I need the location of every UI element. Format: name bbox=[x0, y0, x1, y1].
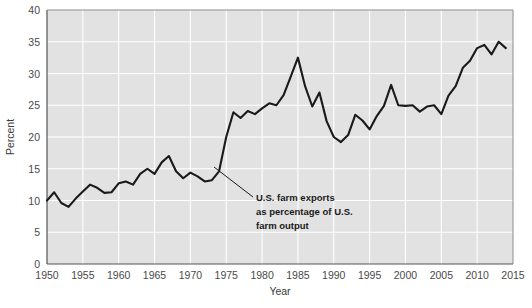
y-tick-label: 5 bbox=[34, 226, 40, 238]
y-tick-label: 10 bbox=[28, 195, 40, 207]
annotation-line-1: U.S. farm exports bbox=[256, 192, 335, 203]
x-tick-label: 1990 bbox=[322, 269, 346, 281]
x-axis-title: Year bbox=[269, 285, 291, 297]
x-tick-label: 1975 bbox=[215, 269, 239, 281]
y-tick-label: 20 bbox=[28, 131, 40, 143]
y-tick-label: 15 bbox=[28, 163, 40, 175]
x-tick-label: 1955 bbox=[71, 269, 95, 281]
x-tick-label: 1985 bbox=[286, 269, 310, 281]
line-chart-svg: 0510152025303540 19501955196019651970197… bbox=[0, 0, 532, 308]
x-tick-label: 2005 bbox=[430, 269, 454, 281]
annotation-line-2: as percentage of U.S. bbox=[256, 206, 353, 217]
y-axis-title: Percent bbox=[4, 119, 16, 155]
chart-figure: 0510152025303540 19501955196019651970197… bbox=[0, 0, 532, 308]
x-tick-label: 1960 bbox=[107, 269, 131, 281]
x-tick-label: 1965 bbox=[143, 269, 167, 281]
x-tick-label: 1950 bbox=[35, 269, 59, 281]
x-tick-label: 1970 bbox=[179, 269, 203, 281]
x-tick-label: 1995 bbox=[358, 269, 382, 281]
x-tick-label: 2010 bbox=[465, 269, 489, 281]
y-tick-label: 30 bbox=[28, 68, 40, 80]
y-tick-label: 35 bbox=[28, 36, 40, 48]
y-tick-label: 25 bbox=[28, 99, 40, 111]
x-tick-label: 1980 bbox=[250, 269, 274, 281]
x-tick-label: 2015 bbox=[501, 269, 525, 281]
y-tick-label: 40 bbox=[28, 4, 40, 16]
annotation-line-3: farm output bbox=[256, 220, 310, 231]
x-tick-label: 2000 bbox=[394, 269, 418, 281]
